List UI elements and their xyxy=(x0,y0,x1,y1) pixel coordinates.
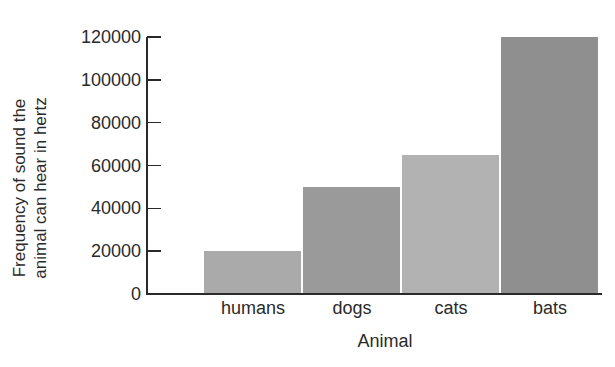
y-tick-label: 120000 xyxy=(81,28,141,46)
x-tick-label-dogs: dogs xyxy=(303,298,401,319)
y-axis-title-line-1: Frequency of sound the xyxy=(9,58,30,318)
y-tick xyxy=(147,79,161,81)
y-tick xyxy=(147,208,161,210)
y-axis-title: Frequency of sound the animal can hear i… xyxy=(9,58,53,318)
bar-bats xyxy=(501,37,598,294)
y-tick xyxy=(147,122,161,124)
y-tick xyxy=(147,250,161,252)
y-axis-line xyxy=(146,37,148,295)
y-tick-label: 0 xyxy=(131,285,141,303)
y-tick-label: 40000 xyxy=(91,199,141,217)
y-tick-label: 80000 xyxy=(91,114,141,132)
x-tick-label-cats: cats xyxy=(402,298,500,319)
y-tick-label: 60000 xyxy=(91,157,141,175)
y-axis-title-line-2: animal can hear in hertz xyxy=(30,58,51,318)
y-tick-label: 100000 xyxy=(81,71,141,89)
x-axis-line xyxy=(146,293,602,295)
y-tick xyxy=(147,36,161,38)
y-tick-label: 20000 xyxy=(91,242,141,260)
bar-dogs xyxy=(303,187,400,294)
x-tick-label-bats: bats xyxy=(501,298,599,319)
y-tick xyxy=(147,165,161,167)
x-tick-label-humans: humans xyxy=(204,298,302,319)
bar-cats xyxy=(402,155,499,294)
bar-humans xyxy=(204,251,301,294)
x-axis-title: Animal xyxy=(330,331,440,352)
